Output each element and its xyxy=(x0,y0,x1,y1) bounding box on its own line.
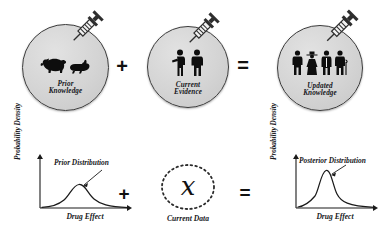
operator-plus-row2: + xyxy=(116,183,132,205)
chart-posterior-distribution: Probability Density Posterior Distributi… xyxy=(270,152,382,232)
current-data-blob: x Current Data xyxy=(148,162,228,230)
chart-annotation-posterior: Posterior Distribution xyxy=(299,156,366,165)
chart-xlabel: Drug Effect xyxy=(40,212,130,221)
chart-xlabel: Drug Effect xyxy=(294,212,376,221)
pig-icon xyxy=(40,56,67,78)
current-data-label: Current Data xyxy=(157,214,219,223)
chart-ylabel: Probability Density xyxy=(14,103,22,160)
annotation-arrow xyxy=(84,170,102,185)
rabbit-icon xyxy=(69,59,91,78)
annotation-arrow xyxy=(332,165,346,174)
syringe-icon xyxy=(315,5,363,57)
operator-plus-row1: + xyxy=(114,55,130,78)
prior-knowledge-icons xyxy=(22,56,109,78)
operator-equals-row2: = xyxy=(236,182,254,204)
chart-ylabel: Probability Density xyxy=(270,103,278,160)
posterior-curve xyxy=(298,170,374,207)
syringe-icon xyxy=(178,8,224,58)
syringe-icon xyxy=(62,6,108,56)
figure-canvas: Prior Knowledge + xyxy=(0,0,382,239)
current-data-symbol: x xyxy=(157,170,219,202)
operator-equals-row1: = xyxy=(234,54,252,77)
man-icon xyxy=(291,50,304,79)
y-axis-arrow xyxy=(37,154,43,159)
chart-annotation-prior: Prior Distribution xyxy=(54,158,109,167)
